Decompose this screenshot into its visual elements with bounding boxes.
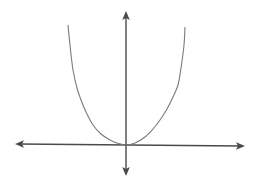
function-graph bbox=[0, 0, 257, 185]
y-axis bbox=[122, 11, 130, 176]
